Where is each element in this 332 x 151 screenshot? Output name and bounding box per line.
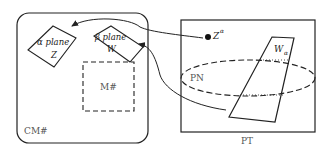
w-alpha-label: W [274, 44, 284, 54]
alpha-plane-symbol: Z [50, 50, 58, 60]
w-alpha-plane: W α [229, 37, 294, 122]
alpha-plane-label: α plane [37, 37, 69, 47]
m-inner-label: M# [100, 82, 117, 92]
diagram-canvas: CM# α plane Z β plane W M# PT Z α PN W α [0, 0, 332, 151]
arrow-z-to-alpha-plane [72, 19, 203, 38]
beta-plane-symbol: W [107, 44, 117, 54]
pt-region-label: PT [241, 136, 253, 146]
z-alpha-label: Z [212, 31, 220, 41]
z-alpha-point [205, 34, 211, 40]
z-alpha-superscript: α [220, 27, 224, 34]
beta-plane: β plane W [94, 26, 143, 62]
beta-plane-label: β plane [94, 32, 126, 42]
cm-region-label: CM# [24, 126, 48, 136]
w-alpha-subscript: α [284, 49, 288, 56]
pn-label: PN [190, 73, 204, 83]
alpha-plane: α plane Z [28, 26, 76, 67]
arrow-w-to-beta-plane [139, 44, 226, 110]
